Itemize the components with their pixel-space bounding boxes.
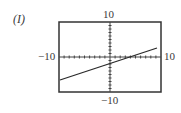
x-max-label: 10 bbox=[164, 51, 175, 62]
graph-window bbox=[0, 0, 181, 113]
y-min-label: −10 bbox=[101, 95, 118, 106]
y-max-label: 10 bbox=[103, 9, 114, 20]
x-min-label: −10 bbox=[38, 51, 55, 62]
graph-line bbox=[60, 48, 157, 80]
